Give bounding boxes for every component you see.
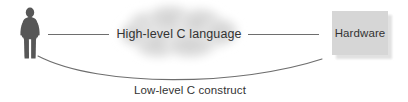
concept-diagram: High-level C language Hardware Low-level… — [0, 0, 408, 102]
hardware-box-label: Hardware — [335, 27, 386, 39]
cloud-label: High-level C language — [108, 24, 250, 44]
arc-label: Low-level C construct — [95, 82, 285, 98]
person-to-cloud-line — [48, 34, 109, 35]
cloud-to-hardware-line — [248, 34, 319, 35]
person-silhouette-icon — [14, 6, 46, 60]
hardware-box: Hardware — [332, 11, 388, 55]
